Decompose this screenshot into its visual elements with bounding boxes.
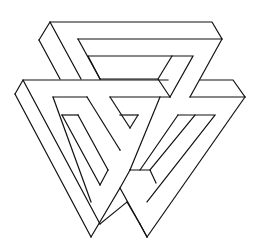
impossible-figure: Impossible triangle figure (line drawing… xyxy=(0,0,260,252)
top-bar xyxy=(39,22,222,97)
bottom-junction xyxy=(91,150,147,237)
right-arm xyxy=(110,80,245,237)
left-arm xyxy=(15,80,168,237)
impossible-figure-drawing xyxy=(0,0,260,252)
